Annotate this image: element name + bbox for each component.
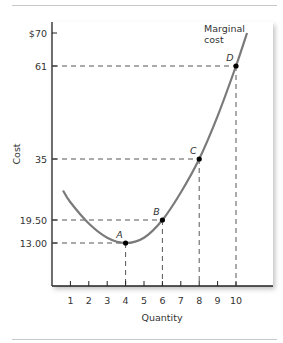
point-a [123,240,128,245]
plot-panel [52,22,273,286]
x-tick-label: 4 [123,295,129,306]
x-tick-label: 8 [196,295,202,306]
y-tick-label: 35 [35,154,47,165]
y-tick-label: 61 [35,61,47,72]
point-d [233,63,238,68]
y-tick-label: $70 [29,28,47,39]
curve-label-line2: cost [204,34,224,45]
point-b [160,217,165,222]
y-tick-label: 19.50 [20,215,47,226]
y-tick-label: 13.00 [20,238,47,249]
x-tick-label: 6 [159,295,165,306]
point-label-a: A [115,229,123,240]
marginal-cost-chart: 12345678910 13.0019.503561$70 ABCD Quant… [0,0,283,343]
curve-label-line1: Marginal [204,23,245,34]
x-tick-label: 2 [86,295,92,306]
point-label-d: D [226,52,233,63]
point-label-b: B [153,206,160,217]
x-tick-label: 9 [215,295,221,306]
point-c [197,156,202,161]
y-axis-title: Cost [11,143,22,164]
x-axis-title: Quantity [141,312,182,323]
x-tick-label: 1 [67,295,73,306]
point-label-c: C [190,145,197,156]
x-tick-label: 5 [141,295,147,306]
x-tick-label: 7 [178,295,184,306]
x-tick-label: 10 [230,295,242,306]
x-tick-label: 3 [104,295,110,306]
